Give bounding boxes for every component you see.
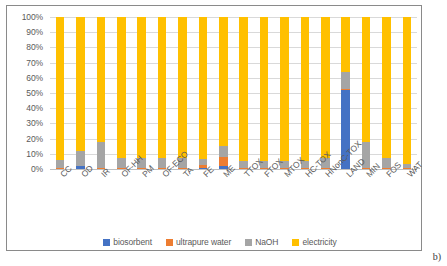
x-axis: CCODIROF-HHPMOF-ECOTAFEMETTOXFTOXMTOXHC-… <box>50 172 417 220</box>
bar-segment[interactable] <box>76 17 85 151</box>
bar-segment[interactable] <box>341 17 350 72</box>
bar-stack <box>301 17 310 169</box>
bar-segment[interactable] <box>403 17 412 164</box>
legend-swatch-icon <box>292 239 299 246</box>
chart-frame: 0%10%20%30%40%50%60%70%80%90%100% CCODIR… <box>6 5 422 251</box>
y-axis-tick-label: 40% <box>26 103 43 113</box>
bar-segment[interactable] <box>321 17 330 158</box>
bar-stack <box>76 17 85 169</box>
bar-stack <box>362 17 371 169</box>
legend-item[interactable]: NaOH <box>245 237 278 247</box>
y-axis-tick-label: 20% <box>26 134 43 144</box>
bar-column[interactable] <box>76 17 85 169</box>
bar-stack <box>280 17 289 169</box>
bar-stack <box>219 17 228 169</box>
bar-stack <box>117 17 126 169</box>
bar-stack <box>158 17 167 169</box>
bar-stack <box>97 17 106 169</box>
chart-legend: biosorbentultrapure waterNaOHelectricity <box>50 234 390 250</box>
bar-stack <box>137 17 146 169</box>
bar-stack <box>56 17 65 169</box>
bar-segment[interactable] <box>219 157 228 166</box>
bar-segment[interactable] <box>341 72 350 89</box>
y-axis-tick-label: 10% <box>26 149 43 159</box>
legend-label: electricity <box>302 237 336 247</box>
bar-segment[interactable] <box>219 146 228 157</box>
bar-segment[interactable] <box>219 17 228 146</box>
bar-segment[interactable] <box>362 17 371 142</box>
bar-column[interactable] <box>260 17 269 169</box>
legend-label: NaOH <box>255 237 278 247</box>
bar-stack <box>382 17 391 169</box>
y-axis-tick-label: 0% <box>31 164 43 174</box>
bar-stack <box>178 17 187 169</box>
bar-column[interactable] <box>280 17 289 169</box>
bar-column[interactable] <box>362 17 371 169</box>
bar-stack <box>321 17 330 169</box>
y-axis-tick-label: 60% <box>26 73 43 83</box>
bar-segment[interactable] <box>56 17 65 160</box>
bar-column[interactable] <box>117 17 126 169</box>
y-axis-tick-label: 70% <box>26 58 43 68</box>
bar-stack <box>403 17 412 169</box>
legend-label: ultrapure water <box>176 237 231 247</box>
bar-stack <box>260 17 269 169</box>
bar-column[interactable] <box>239 17 248 169</box>
y-axis: 0%10%20%30%40%50%60%70%80%90%100% <box>7 17 48 169</box>
legend-swatch-icon <box>245 239 252 246</box>
y-axis-tick-label: 90% <box>26 27 43 37</box>
figure-panel: 0%10%20%30%40%50%60%70%80%90%100% CCODIR… <box>0 0 447 266</box>
bar-segment[interactable] <box>301 17 310 161</box>
legend-item[interactable]: biosorbent <box>103 237 152 247</box>
bar-segment[interactable] <box>97 142 106 169</box>
bar-column[interactable] <box>382 17 391 169</box>
bar-column[interactable] <box>97 17 106 169</box>
bar-column[interactable] <box>301 17 310 169</box>
bar-column[interactable] <box>56 17 65 169</box>
bar-segment[interactable] <box>280 17 289 161</box>
y-axis-tick-label: 80% <box>26 42 43 52</box>
bar-column[interactable] <box>403 17 412 169</box>
bar-segment[interactable] <box>239 17 248 161</box>
legend-swatch-icon <box>103 239 110 246</box>
bar-segment[interactable] <box>382 17 391 158</box>
bar-segment[interactable] <box>76 151 85 166</box>
bar-column[interactable] <box>199 17 208 169</box>
panel-label: b) <box>433 251 441 262</box>
bar-segment[interactable] <box>260 17 269 161</box>
bar-stack <box>199 17 208 169</box>
bar-segment[interactable] <box>199 17 208 159</box>
bar-segment[interactable] <box>97 17 106 142</box>
bar-segment[interactable] <box>117 17 126 158</box>
bar-column[interactable] <box>178 17 187 169</box>
y-axis-tick-label: 100% <box>22 12 43 22</box>
bar-column[interactable] <box>158 17 167 169</box>
bar-column[interactable] <box>219 17 228 169</box>
legend-swatch-icon <box>166 239 173 246</box>
bar-segment[interactable] <box>137 17 146 158</box>
legend-item[interactable]: ultrapure water <box>166 237 231 247</box>
bar-segment[interactable] <box>199 159 208 165</box>
y-axis-tick-label: 50% <box>26 88 43 98</box>
bar-segment[interactable] <box>178 17 187 158</box>
legend-label: biosorbent <box>113 237 152 247</box>
bar-segment[interactable] <box>341 89 350 90</box>
y-axis-tick-label: 30% <box>26 118 43 128</box>
bar-stack <box>239 17 248 169</box>
bar-column[interactable] <box>137 17 146 169</box>
bar-segment[interactable] <box>158 17 167 158</box>
bar-column[interactable] <box>321 17 330 169</box>
legend-item[interactable]: electricity <box>292 237 336 247</box>
